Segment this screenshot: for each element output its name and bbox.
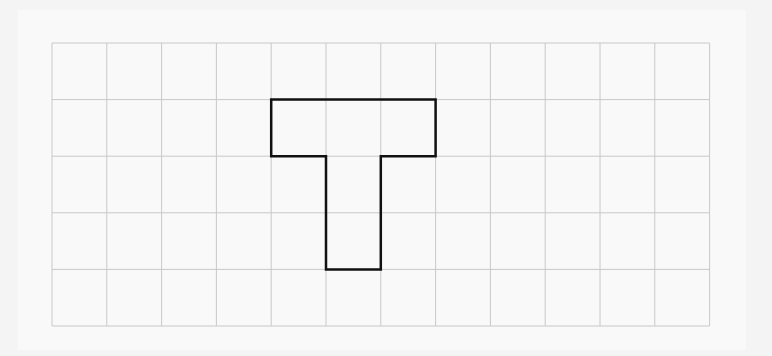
t-shape-outline [271, 100, 435, 270]
grid-board [0, 0, 772, 356]
